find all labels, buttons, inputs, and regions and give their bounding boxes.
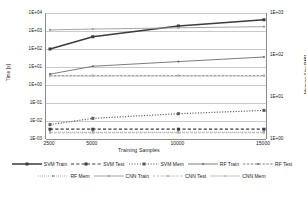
chart-figure: Time [s] Memory Size [MB] Training Sampl… bbox=[0, 0, 306, 197]
legend-item-rf-test[interactable]: RF Test bbox=[243, 160, 296, 168]
series-line bbox=[50, 57, 264, 74]
data-point-marker bbox=[263, 132, 265, 134]
data-point-marker bbox=[92, 28, 94, 30]
x-axis-tick-label: 2500 bbox=[43, 140, 54, 146]
y-axis-right-tick-label: 1E+00 bbox=[270, 136, 283, 141]
legend-item-svm-mem[interactable]: SVM Mem bbox=[129, 160, 188, 168]
legend-item-rf-mem[interactable]: RF Mem bbox=[38, 172, 93, 180]
data-point-marker bbox=[177, 60, 179, 62]
data-point-marker bbox=[49, 123, 52, 126]
data-point-marker bbox=[49, 128, 52, 131]
y-axis-right-tick-label: 1E+03 bbox=[270, 10, 283, 15]
legend-swatch bbox=[210, 172, 240, 180]
legend-swatch bbox=[129, 160, 159, 168]
legend-swatch bbox=[12, 160, 42, 168]
data-point-marker bbox=[49, 48, 52, 51]
data-point-marker bbox=[91, 128, 94, 131]
legend-label: RF Test bbox=[273, 161, 296, 167]
y-axis-left-tick-label: 1E-01 bbox=[30, 100, 42, 105]
y-axis-left-tick-label: 1E-03 bbox=[30, 136, 42, 141]
data-point-marker bbox=[91, 117, 94, 120]
legend-item-cnn-train[interactable]: CNN Train bbox=[94, 172, 153, 180]
data-point-marker bbox=[263, 128, 266, 131]
data-point-marker bbox=[263, 109, 266, 112]
data-point-marker bbox=[92, 75, 94, 77]
legend-swatch bbox=[71, 160, 101, 168]
series-svm-train bbox=[49, 18, 266, 50]
x-axis-tick-label: 15000 bbox=[256, 140, 270, 146]
legend-label: SVM Test bbox=[101, 161, 128, 167]
y-axis-right-title: Memory Size [MB] bbox=[304, 49, 307, 101]
legend-label: RF Train bbox=[218, 161, 243, 167]
x-axis-tick-label: 5000 bbox=[86, 140, 97, 146]
legend-label: CNN Mem bbox=[240, 173, 269, 179]
legend-label: CNN Test bbox=[183, 173, 210, 179]
legend-swatch bbox=[188, 160, 218, 168]
series-svm-test bbox=[49, 128, 266, 131]
legend-swatch bbox=[38, 172, 68, 180]
y-axis-left-tick-label: 1E+04 bbox=[29, 10, 42, 15]
data-point-marker bbox=[49, 29, 51, 31]
series-lines bbox=[46, 13, 268, 139]
legend-swatch bbox=[94, 172, 124, 180]
legend-item-rf-train[interactable]: RF Train bbox=[188, 160, 243, 168]
y-axis-left-title: Time [s] bbox=[6, 51, 11, 95]
y-axis-right-ticks: 1E+031E+021E+011E+00 bbox=[270, 13, 300, 139]
y-axis-left-ticks: 1E+041E+031E+021E+011E+001E-011E-021E-03 bbox=[12, 13, 42, 139]
legend-item-cnn-test[interactable]: CNN Test bbox=[153, 172, 210, 180]
y-axis-right-tick-label: 1E+02 bbox=[270, 52, 283, 57]
data-point-marker bbox=[263, 26, 265, 28]
data-point-marker bbox=[177, 27, 179, 29]
legend-swatch bbox=[153, 172, 183, 180]
legend-swatch bbox=[243, 160, 273, 168]
data-point-marker bbox=[177, 75, 179, 77]
data-point-marker bbox=[49, 132, 51, 134]
legend-row: RF MemCNN TrainCNN TestCNN Mem bbox=[4, 170, 304, 182]
legend-label: RF Mem bbox=[68, 173, 93, 179]
y-axis-left-tick-label: 1E-02 bbox=[30, 118, 42, 123]
legend-label: SVM Mem bbox=[159, 161, 188, 167]
legend-item-svm-train[interactable]: SVM Train bbox=[12, 160, 71, 168]
data-point-marker bbox=[263, 56, 265, 58]
data-point-marker bbox=[49, 75, 51, 77]
data-point-marker bbox=[177, 112, 180, 115]
data-point-marker bbox=[263, 18, 266, 21]
y-axis-right-tick-label: 1E+01 bbox=[270, 94, 283, 99]
data-point-marker bbox=[263, 75, 265, 77]
data-point-marker bbox=[177, 128, 180, 131]
legend-item-cnn-mem[interactable]: CNN Mem bbox=[210, 172, 269, 180]
data-point-marker bbox=[91, 35, 94, 38]
y-axis-left-tick-label: 1E+02 bbox=[29, 46, 42, 51]
plot-area bbox=[45, 13, 267, 139]
series-line bbox=[50, 20, 264, 49]
data-point-marker bbox=[92, 65, 94, 67]
data-point-marker bbox=[177, 132, 179, 134]
series-cnn-train bbox=[49, 26, 265, 31]
legend-label: SVM Train bbox=[42, 161, 71, 167]
legend-row: SVM TrainSVM TestSVM MemRF TrainRF Test bbox=[4, 158, 304, 170]
y-axis-left-tick-label: 1E+00 bbox=[29, 82, 42, 87]
y-axis-left-tick-label: 1E+03 bbox=[29, 28, 42, 33]
series-line bbox=[50, 110, 264, 124]
series-svm-mem bbox=[49, 109, 266, 126]
x-axis-tick-label: 10000 bbox=[170, 140, 184, 146]
data-point-marker bbox=[92, 132, 94, 134]
legend-item-svm-test[interactable]: SVM Test bbox=[71, 160, 128, 168]
legend-label: CNN Train bbox=[124, 173, 153, 179]
x-axis-ticks: 250050001000015000 bbox=[45, 140, 267, 150]
series-rf-train bbox=[49, 56, 265, 75]
chart-legend: SVM TrainSVM TestSVM MemRF TrainRF TestR… bbox=[4, 158, 304, 182]
y-axis-left-tick-label: 1E+01 bbox=[29, 64, 42, 69]
